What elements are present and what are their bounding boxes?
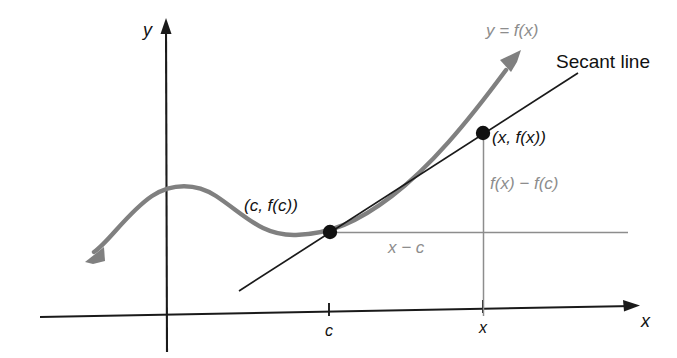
x-tick-label-c: c (325, 322, 333, 339)
x-tick-label-x: x (478, 319, 488, 336)
secant-line-label: Secant line (556, 51, 650, 72)
rise-label: f(x) − f(c) (490, 174, 558, 193)
x-axis-arrowhead (623, 300, 640, 312)
y-axis-label: y (141, 20, 153, 40)
y-axis-arrowhead (161, 18, 172, 34)
run-label: x − c (387, 238, 425, 257)
difference-triangle-group (330, 133, 628, 316)
labels-group: y x c x y = f(x) Secant line (c, f(c)) (… (141, 20, 651, 339)
x-axis-line (40, 306, 633, 317)
curve-name-label: y = f(x) (485, 21, 538, 40)
point-x-label: (x, f(x)) (492, 128, 546, 147)
point-c-label: (c, f(c)) (244, 196, 298, 215)
secant-line-diagram: y x c x y = f(x) Secant line (c, f(c)) (… (0, 0, 677, 358)
point-x-dot (476, 126, 490, 140)
curve-right-arrowhead (500, 50, 521, 72)
point-c-dot (323, 225, 337, 239)
figure-svg: y x c x y = f(x) Secant line (c, f(c)) (… (0, 0, 677, 358)
x-axis-label: x (640, 311, 651, 331)
function-curve (94, 70, 506, 252)
